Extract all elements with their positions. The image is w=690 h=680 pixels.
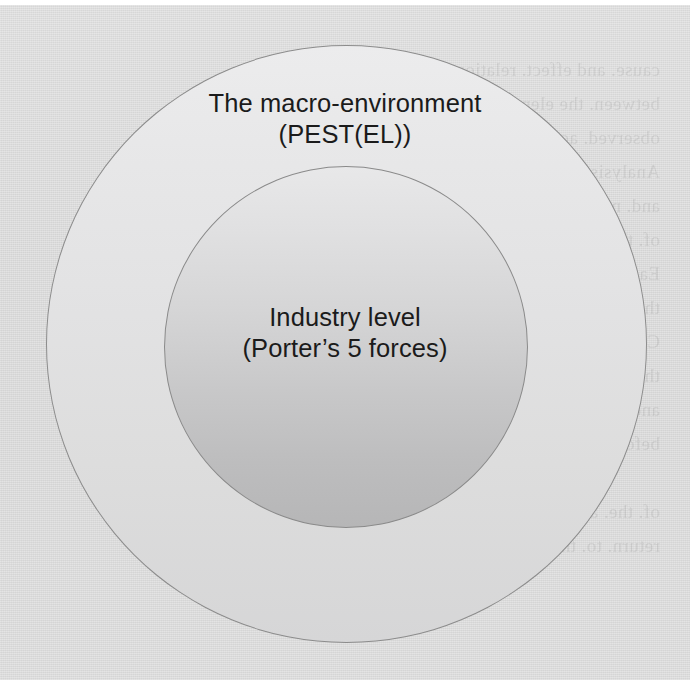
inner-circle-industry-level xyxy=(164,166,528,528)
scanned-diagram-page: cause. and effect. relationships between… xyxy=(0,0,690,680)
